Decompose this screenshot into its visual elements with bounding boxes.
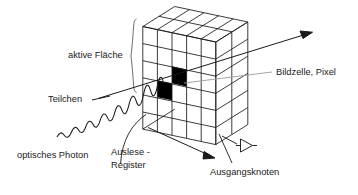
label-readout-register-line1: Auslese - [111,147,150,157]
amplifier-triangle-icon [222,136,257,152]
diagram-canvas: aktive Fläche Teilchen Bildzelle, Pixel … [0,0,358,195]
sensor-array-block [143,7,248,161]
label-optical-photon: optisches Photon [17,150,88,160]
label-readout-register-line2: Register [111,160,146,170]
particle-label-leader [92,96,110,100]
front-face-row-lines [143,44,216,128]
label-output-node: Ausgangsknoten [210,167,279,177]
photon-wave-arrow [57,77,163,137]
readout-direction-arrow [148,128,215,160]
pixel-cell-leader [184,72,272,83]
readout-register-ledge [143,109,220,160]
label-particle: Teilchen [48,94,82,104]
active-area-brace [131,19,137,93]
label-pixel-cell: Bildzelle, Pixel [276,67,336,77]
particle-track-arrow [98,31,313,99]
label-active-area: aktive Fläche [68,50,123,60]
